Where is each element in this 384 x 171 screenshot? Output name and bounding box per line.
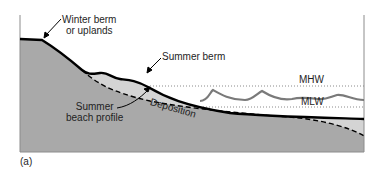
mlw-label: MLW — [301, 96, 324, 107]
winter-berm-arrow — [44, 19, 61, 38]
summer-profile-label: Summer beach profile — [66, 101, 123, 123]
summer-profile-label-line2: beach profile — [66, 112, 123, 123]
wave-line — [200, 90, 364, 101]
summer-profile-label-line1: Summer — [66, 101, 123, 112]
winter-berm-label-line2: or uplands — [62, 25, 116, 36]
beach-profile-diagram — [0, 0, 384, 171]
mhw-label: MHW — [299, 74, 324, 85]
winter-berm-label: Winter berm or uplands — [62, 14, 116, 36]
winter-berm-label-line1: Winter berm — [62, 14, 116, 25]
summer-berm-arrow — [147, 58, 161, 73]
panel-label: (a) — [20, 156, 32, 167]
summer-berm-label: Summer berm — [162, 51, 225, 62]
